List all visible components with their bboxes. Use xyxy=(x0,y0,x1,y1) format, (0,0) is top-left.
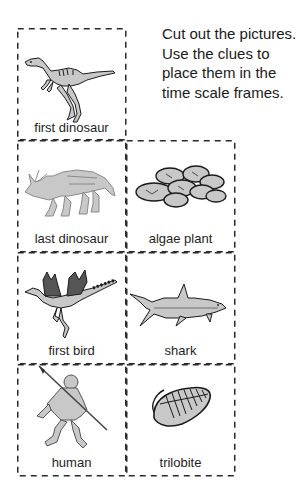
card-algae-plant[interactable]: algae plant xyxy=(126,140,235,252)
card-label: shark xyxy=(126,343,235,358)
card-shark[interactable]: shark xyxy=(126,252,235,364)
card-last-dinosaur[interactable]: last dinosaur xyxy=(17,140,126,252)
instruction-line: place them in the xyxy=(162,63,303,83)
instruction-line: Use the clues to xyxy=(162,44,303,64)
instructions-text: Cut out the pictures. Use the clues to p… xyxy=(162,24,303,102)
card-label: trilobite xyxy=(126,455,235,470)
card-human[interactable]: human xyxy=(17,364,126,476)
card-first-dinosaur[interactable]: first dinosaur xyxy=(17,28,126,140)
card-label: algae plant xyxy=(126,231,235,246)
card-label: human xyxy=(17,455,126,470)
card-trilobite[interactable]: trilobite xyxy=(126,364,235,476)
instruction-line: Cut out the pictures. xyxy=(162,24,303,44)
card-first-bird[interactable]: first bird xyxy=(17,252,126,364)
instruction-line: time scale frames. xyxy=(162,83,303,103)
card-label: last dinosaur xyxy=(17,231,126,246)
card-label: first dinosaur xyxy=(17,120,126,135)
card-label: first bird xyxy=(17,343,126,358)
